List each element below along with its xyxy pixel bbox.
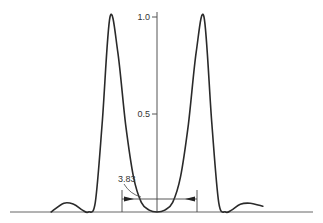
dimension-label: 3.83 — [118, 174, 136, 184]
figure: 1.0 0.5 3.83 — [0, 0, 323, 223]
tick-label-0-5: 0.5 — [137, 109, 150, 119]
arrow-left-icon — [185, 197, 195, 202]
tick-label-1-0: 1.0 — [137, 12, 150, 22]
arrow-right-icon — [124, 197, 134, 202]
